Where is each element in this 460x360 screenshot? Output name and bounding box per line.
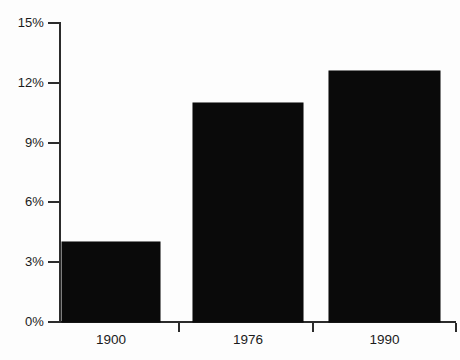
y-axis-tick-mark — [48, 22, 60, 24]
x-axis-tick-mark — [178, 323, 180, 332]
y-axis-tick-label: 6% — [0, 195, 44, 208]
y-axis-tick-label: 9% — [0, 136, 44, 149]
x-axis-tick-mark — [455, 323, 457, 332]
y-axis-line — [59, 22, 61, 323]
bar-chart: 15%12%9%6%3%0% 190019761990 — [0, 0, 460, 360]
y-axis-tick-mark — [48, 142, 60, 144]
x-axis-label-1990: 1990 — [345, 332, 425, 347]
y-axis-tick-label: 0% — [0, 315, 44, 328]
y-axis-tick-label: 3% — [0, 255, 44, 268]
x-axis-label-1900: 1900 — [71, 332, 151, 347]
bar-1900 — [62, 242, 160, 322]
y-axis-tick-mark — [48, 321, 60, 323]
y-axis-tick-mark — [48, 261, 60, 263]
y-axis-tick-mark — [48, 82, 60, 84]
y-axis-tick-mark — [48, 201, 60, 203]
x-axis-tick-mark — [312, 323, 314, 332]
x-axis-label-1976: 1976 — [208, 332, 288, 347]
y-axis-tick-label: 15% — [0, 16, 44, 29]
y-axis-tick-label: 12% — [0, 76, 44, 89]
bar-1976 — [193, 103, 303, 322]
bar-1990 — [329, 71, 440, 322]
